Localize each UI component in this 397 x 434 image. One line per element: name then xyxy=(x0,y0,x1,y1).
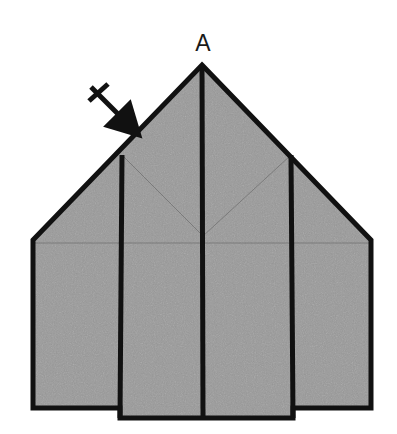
origami-diagram-canvas: A xyxy=(0,0,397,434)
vertical-fold-left xyxy=(120,155,122,418)
origami-figure: A xyxy=(0,0,397,434)
vertical-fold-center xyxy=(202,65,203,418)
vertical-fold-right xyxy=(291,155,293,418)
apex-vertex-label: A xyxy=(195,30,211,56)
